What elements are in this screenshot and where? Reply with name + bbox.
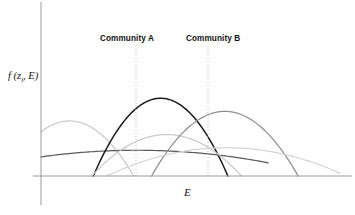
curve-curve-1-light-gray-left — [41, 121, 134, 176]
curve-curve-5-medium-gray-right — [152, 111, 299, 176]
chart-figure: Community A Community B f (zi, E) E — [0, 0, 355, 215]
y-axis-title-tail: , E) — [23, 70, 38, 81]
y-axis-title: f (zi, E) — [8, 70, 38, 84]
curve-curve-2-dark-gray-broad-left — [41, 150, 268, 163]
curves-group — [41, 98, 340, 176]
curve-curve-6-very-light-gray-broad-right — [107, 148, 340, 176]
x-axis-title: E — [184, 186, 191, 198]
annotation-label-community-b: Community B — [186, 34, 240, 43]
chart-plot-area — [0, 0, 355, 215]
y-axis-title-main: f (z — [8, 70, 21, 81]
community-guide-lines — [136, 46, 208, 176]
annotation-label-community-a: Community A — [100, 34, 154, 43]
